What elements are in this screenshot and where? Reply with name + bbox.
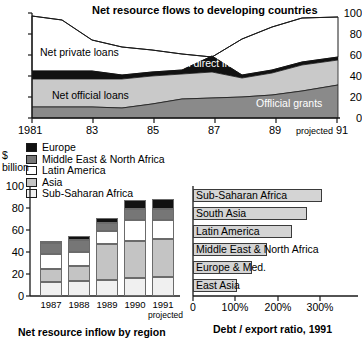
hbar-label-europe-med: Europe & Med.: [193, 261, 266, 274]
hbar-xtick-0: 0: [185, 302, 201, 313]
area-label-grants: Offlicial grants: [256, 98, 322, 109]
area-xtick-91: 91: [336, 125, 348, 136]
bar-segment-sub-saharan-africa: [40, 282, 62, 296]
bar-xtick-1990: 1990: [122, 300, 148, 310]
bar-segment-latin-america: [96, 231, 118, 244]
area-label-fdi: Foreign direct investment: [155, 58, 273, 69]
stacked-bar-1991: [152, 186, 174, 296]
hbar-label-south-asia: South Asia: [193, 207, 246, 220]
bar-projected-note: projected: [148, 310, 180, 320]
bar-segment-europe: [96, 218, 118, 224]
legend-item-europe: Europe: [26, 142, 206, 154]
hbar-xtick-100: 100%: [217, 302, 253, 313]
area-xtick-89: 89: [269, 125, 281, 136]
stacked-bar-1987: [40, 186, 62, 296]
stacked-bar-1989: [96, 186, 118, 296]
bar-segment-sub-saharan-africa: [68, 281, 90, 296]
hbar-xtick-300: 300%: [302, 302, 338, 313]
stacked-bar-1990: [124, 186, 146, 296]
area-xtick-83: 83: [86, 125, 98, 136]
bar-segment-latin-america: [68, 252, 90, 266]
bar-segment-middle-east-north-africa: [152, 209, 174, 220]
bar-segment-middle-east-north-africa: [40, 243, 62, 254]
bar-xtick-1991: 1991: [150, 300, 176, 310]
bar-segment-middle-east-north-africa: [124, 209, 146, 220]
area-label-private-loans: Net private loans: [40, 47, 119, 58]
hbar-xtick-200: 200%: [260, 302, 296, 313]
bar-segment-asia: [40, 269, 62, 282]
bar-segment-asia: [152, 239, 174, 278]
bar-segment-sub-saharan-africa: [152, 277, 174, 296]
currency-symbol: $: [2, 150, 29, 162]
y-axis-unit-label: $ billion: [2, 150, 29, 173]
bar-segment-latin-america: [124, 220, 146, 241]
hbar-label-middle-east-north-africa: Middle East & North Africa: [193, 243, 319, 256]
area-label-official-loans: Net official loans: [52, 90, 129, 101]
hbar-label-sub-saharan-africa: Sub-Saharan Africa: [193, 189, 287, 202]
net-resource-flows-chart: Net resource flows to developing countri…: [0, 0, 362, 130]
net-resource-inflow-chart: 100 80 60 40 20 0: [0, 186, 186, 350]
hbar-chart-caption: Debt / export ratio, 1991: [213, 323, 332, 335]
bar-xtick-1989: 1989: [94, 300, 120, 310]
bar-xtick-1988: 1988: [66, 300, 92, 310]
legend-label-europe: Europe: [42, 142, 76, 153]
bar-segment-latin-america: [40, 254, 62, 268]
debt-export-ratio-chart: Sub-Saharan Africa South Asia Latin Amer…: [186, 186, 362, 350]
bar-segment-asia: [68, 266, 90, 280]
bar-segment-europe: [152, 199, 174, 209]
legend-label-middle-east-north-africa: Middle East & North Africa: [42, 154, 165, 165]
area-xtick-87: 87: [208, 125, 220, 136]
legend-item-latin-america: Latin America: [26, 165, 206, 177]
bar-segment-latin-america: [152, 220, 174, 239]
area-xtick-85: 85: [147, 125, 159, 136]
stacked-bar-1988: [68, 186, 90, 296]
bar-segment-asia: [124, 241, 146, 278]
bar-segment-europe: [40, 241, 62, 243]
bar-segment-middle-east-north-africa: [96, 223, 118, 231]
bar-segment-sub-saharan-africa: [124, 278, 146, 296]
hbar-label-latin-america: Latin America: [193, 225, 260, 238]
bar-segment-europe: [124, 200, 146, 209]
bar-segment-middle-east-north-africa: [68, 240, 90, 252]
bar-segment-asia: [96, 244, 118, 279]
legend-label-latin-america: Latin America: [42, 165, 106, 176]
unit-billion: billion: [2, 162, 29, 174]
area-projected-note: projected: [296, 126, 333, 137]
area-xtick-1981: 1981: [18, 125, 42, 136]
bar-segment-sub-saharan-africa: [96, 280, 118, 297]
bar-chart-caption: Net resource inflow by region: [18, 326, 166, 338]
bar-segment-europe: [68, 236, 90, 240]
hbar-label-east-asia: East Asia: [193, 279, 240, 292]
bar-xtick-1987: 1987: [38, 300, 64, 310]
